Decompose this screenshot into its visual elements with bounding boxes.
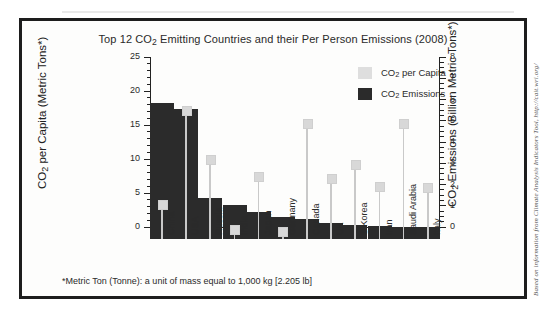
- bar-column: [319, 69, 343, 239]
- left-tick-label: 10: [94, 153, 140, 163]
- bar-column: [223, 69, 247, 239]
- category-label: UK: [335, 222, 345, 235]
- right-tick-minor: [440, 104, 444, 105]
- category-label: S Korea: [359, 202, 369, 235]
- bar-column: [416, 69, 440, 239]
- per-capita-marker: [351, 160, 361, 170]
- right-tick-label: 4: [450, 136, 455, 146]
- right-tick-minor: [440, 211, 444, 212]
- right-tick-minor: [440, 189, 444, 190]
- right-tick-minor: [440, 216, 444, 217]
- right-tick-minor: [440, 168, 444, 169]
- per-capita-marker: [375, 182, 385, 192]
- right-tick-minor: [440, 200, 444, 201]
- category-label: Germany: [287, 198, 297, 235]
- per-capita-marker: [206, 155, 216, 165]
- per-capita-stem: [427, 187, 429, 239]
- per-capita-marker: [158, 200, 168, 210]
- right-tick-minor: [440, 195, 444, 196]
- per-capita-stem: [209, 159, 211, 239]
- right-tick-major: [440, 142, 446, 143]
- right-tick-minor: [440, 152, 444, 153]
- category-label: USA: [190, 216, 200, 235]
- left-tick-label: 15: [94, 119, 140, 129]
- per-capita-stem: [306, 123, 308, 239]
- right-tick-label: 3: [450, 157, 455, 167]
- category-label: Canada: [311, 203, 321, 235]
- bar-column: [368, 69, 392, 239]
- per-capita-stem: [330, 178, 332, 239]
- per-capita-marker: [423, 183, 433, 193]
- right-tick-label: 5: [450, 115, 455, 125]
- plot-wrap: 0510152025 012345678 ChinaUSARussiaIndia…: [72, 57, 464, 239]
- category-label: Iran: [384, 219, 394, 235]
- right-tick-major: [440, 120, 446, 121]
- right-tick-major: [440, 57, 446, 58]
- category-label: China: [166, 211, 176, 235]
- left-tick-label: 0: [94, 221, 140, 231]
- per-capita-stem: [185, 110, 187, 239]
- right-tick-minor: [440, 131, 444, 132]
- right-tick-minor: [440, 62, 444, 63]
- right-tick-minor: [440, 88, 444, 89]
- right-tick-label: 7: [450, 72, 455, 82]
- right-tick-label: 0: [450, 221, 455, 231]
- per-capita-marker: [182, 106, 192, 116]
- per-capita-marker: [254, 172, 264, 182]
- left-tick-major: [144, 57, 150, 58]
- per-capita-marker: [303, 119, 313, 129]
- right-tick-minor: [440, 94, 444, 95]
- left-tick-label: 20: [94, 85, 140, 95]
- right-tick-minor: [440, 115, 444, 116]
- right-tick-minor: [440, 147, 444, 148]
- figure-frame: Top 12 CO2 Emitting Countries and their …: [19, 18, 527, 299]
- bar-column: [174, 69, 198, 239]
- figure-inner: Top 12 CO2 Emitting Countries and their …: [22, 21, 524, 296]
- right-tick-minor: [440, 67, 444, 68]
- per-capita-marker: [399, 119, 409, 129]
- side-credit: Based on information from Climate Analys…: [532, 64, 540, 296]
- right-tick-major: [440, 184, 446, 185]
- per-capita-stem: [379, 186, 381, 239]
- right-tick-minor: [440, 179, 444, 180]
- right-tick-label: 8: [450, 51, 455, 61]
- category-label: Italy: [432, 218, 442, 235]
- left-axis-title: CO2 per Capita (Metric Tons*): [36, 37, 50, 189]
- category-label: Japan: [263, 210, 273, 235]
- right-tick-minor: [440, 173, 444, 174]
- right-tick-label: 2: [450, 179, 455, 189]
- category-label: Russia: [214, 207, 224, 235]
- footnote: *Metric Ton (Tonne): a unit of mass equa…: [62, 276, 312, 286]
- right-tick-major: [440, 163, 446, 164]
- category-label: India: [239, 215, 249, 235]
- right-tick-minor: [440, 110, 444, 111]
- per-capita-stem: [354, 164, 356, 239]
- per-capita-stem: [258, 176, 260, 239]
- per-capita-stem: [403, 123, 405, 239]
- left-tick-label: 25: [94, 51, 140, 61]
- scan-bleed-line: [62, 11, 514, 13]
- right-tick-label: 6: [450, 94, 455, 104]
- right-tick-major: [440, 99, 446, 100]
- left-tick-minor: [147, 63, 151, 64]
- right-tick-major: [440, 205, 446, 206]
- right-tick-major: [440, 78, 446, 79]
- right-tick-label: 1: [450, 200, 455, 210]
- left-tick-label: 5: [94, 187, 140, 197]
- per-capita-marker: [327, 174, 337, 184]
- scan-bleed-strip: [0, 0, 550, 16]
- right-tick-minor: [440, 126, 444, 127]
- right-tick-minor: [440, 72, 444, 73]
- right-tick-minor: [440, 83, 444, 84]
- right-tick-minor: [440, 157, 444, 158]
- right-tick-minor: [440, 136, 444, 137]
- category-label: Saudi Arabia: [408, 184, 418, 235]
